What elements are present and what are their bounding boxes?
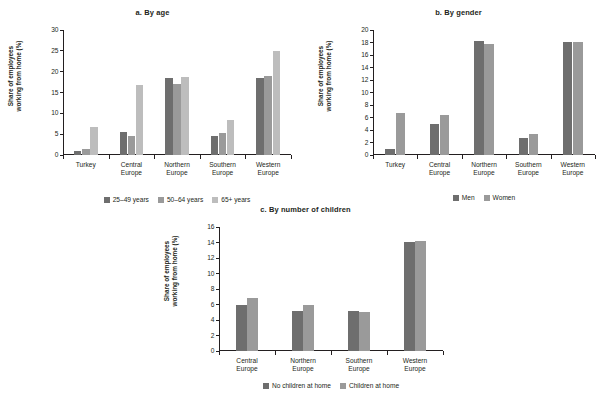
- y-axis-tick-label: 16: [361, 52, 368, 59]
- x-axis-category-label-line: Europe: [403, 365, 427, 373]
- legend-item[interactable]: No children at home: [263, 382, 331, 389]
- panel-c-bar-group-container: CentralEuropeNorthernEuropeSouthernEurop…: [219, 227, 443, 351]
- x-axis-group-separator: [551, 155, 552, 159]
- y-axis-tick-label: 25: [51, 48, 58, 55]
- y-axis-tick-label: 8: [211, 286, 215, 293]
- y-axis-tick: [216, 304, 219, 305]
- legend-swatch-icon: [212, 197, 218, 203]
- bar: [303, 305, 314, 352]
- y-axis-tick-label: 16: [207, 224, 214, 231]
- x-axis-category-label: CentralEurope: [236, 357, 257, 374]
- y-axis-tick-label: 20: [51, 68, 58, 75]
- bar: [359, 312, 370, 351]
- bar: [396, 113, 406, 156]
- x-axis-category-label: Turkey: [76, 161, 96, 169]
- x-axis-category-label: Turkey: [385, 161, 405, 169]
- legend-item[interactable]: 50–64 years: [158, 196, 203, 203]
- legend-swatch-icon: [158, 197, 164, 203]
- bar: [181, 77, 189, 155]
- x-axis-category-label: WesternEurope: [403, 357, 427, 374]
- panel-c-legend: No children at homeChildren at home: [219, 382, 443, 389]
- x-axis-category-label: NorthernEurope: [290, 357, 316, 374]
- y-axis-label-line: working from home (%): [171, 217, 179, 325]
- y-axis-tick: [60, 92, 63, 93]
- panel-a-title: a. By age: [0, 8, 305, 17]
- x-axis-category-label-line: Europe: [236, 365, 257, 373]
- y-axis-label-line: Share of employees: [163, 217, 171, 325]
- y-axis-tick-label: 6: [365, 114, 369, 121]
- bar: [348, 311, 359, 351]
- legend-item[interactable]: 65+ years: [212, 196, 250, 203]
- panel-c-y-axis-label: Share of employeesworking from home (%): [163, 217, 179, 325]
- bar: [573, 42, 583, 155]
- legend-label: No children at home: [272, 382, 331, 389]
- bar: [173, 84, 181, 155]
- bar: [264, 76, 272, 155]
- x-axis-category-label-line: Southern: [515, 161, 542, 169]
- bar-group: NorthernEurope: [154, 30, 200, 155]
- y-axis-tick-label: 0: [365, 152, 369, 159]
- figure-working-from-home: a. By age Share of employeesworking from…: [0, 0, 611, 413]
- y-axis-tick-label: 12: [361, 77, 368, 84]
- x-axis-category-label: SouthernEurope: [346, 357, 373, 374]
- y-axis-tick-label: 4: [211, 317, 215, 324]
- x-axis-group-separator: [331, 351, 332, 355]
- x-axis-group-separator: [506, 155, 507, 159]
- y-axis-label-line: working from home (%): [325, 22, 333, 130]
- y-axis-tick-label: 30: [51, 27, 58, 34]
- panel-a-plot-area: TurkeyCentralEuropeNorthernEuropeSouther…: [63, 30, 291, 155]
- y-axis-tick: [216, 289, 219, 290]
- x-axis-group-separator: [275, 351, 276, 355]
- bar: [563, 42, 573, 155]
- legend-label: 50–64 years: [167, 196, 203, 203]
- bar: [165, 78, 173, 156]
- y-axis-tick: [60, 134, 63, 135]
- y-axis-tick: [216, 320, 219, 321]
- bar: [404, 242, 415, 351]
- y-axis-tick: [216, 335, 219, 336]
- bar: [219, 133, 227, 155]
- legend-swatch-icon: [263, 383, 269, 389]
- legend-swatch-icon: [484, 195, 490, 201]
- legend-item[interactable]: Men: [453, 194, 475, 201]
- bar: [90, 127, 98, 155]
- y-axis-tick: [60, 113, 63, 114]
- bar: [385, 149, 395, 155]
- bar: [128, 136, 136, 155]
- legend-item[interactable]: 25–49 years: [104, 196, 149, 203]
- x-axis-category-label-line: Europe: [346, 365, 373, 373]
- bar-group: Turkey: [63, 30, 109, 155]
- bar: [247, 298, 258, 351]
- panel-b-y-axis-label: Share of employeesworking from home (%): [317, 22, 333, 130]
- y-axis-tick: [216, 273, 219, 274]
- x-axis-group-separator: [462, 155, 463, 159]
- y-axis-label-line: working from home (%): [15, 22, 23, 130]
- legend-item[interactable]: Children at home: [340, 382, 399, 389]
- y-axis-tick: [216, 227, 219, 228]
- bar: [474, 41, 484, 155]
- y-axis-tick-label: 12: [207, 255, 214, 262]
- y-axis-tick-label: 10: [361, 89, 368, 96]
- x-axis-category-label-line: Turkey: [76, 161, 96, 169]
- bar-group: NorthernEurope: [275, 227, 331, 351]
- y-axis-tick-label: 18: [361, 39, 368, 46]
- bar: [256, 78, 264, 155]
- y-axis-tick-label: 20: [361, 27, 368, 34]
- x-axis-category-label-line: Europe: [121, 169, 142, 177]
- legend-label: Men: [462, 194, 475, 201]
- y-axis-tick-label: 14: [361, 64, 368, 71]
- panel-b-plot-area: TurkeyCentralEuropeNorthernEuropeSouther…: [373, 30, 595, 155]
- x-axis-category-label: SouthernEurope: [209, 161, 236, 178]
- x-axis-category-label: CentralEurope: [429, 161, 450, 178]
- x-axis-category-label-line: Europe: [209, 169, 236, 177]
- x-axis-category-label-line: Northern: [164, 161, 190, 169]
- x-axis-category-label-line: Central: [429, 161, 450, 169]
- legend-item[interactable]: Women: [484, 194, 516, 201]
- x-axis-group-separator: [245, 155, 246, 159]
- y-axis-tick: [370, 130, 373, 131]
- bar-group: SouthernEurope: [331, 227, 387, 351]
- panel-b-by-gender: b. By gender Share of employeesworking f…: [306, 8, 611, 208]
- y-axis-tick: [60, 30, 63, 31]
- x-axis-category-label-line: Western: [256, 161, 280, 169]
- x-axis-group-separator: [595, 155, 596, 159]
